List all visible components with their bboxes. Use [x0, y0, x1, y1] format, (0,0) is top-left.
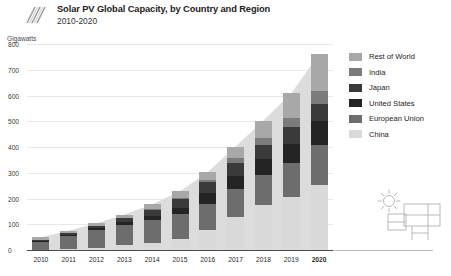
legend-swatch [349, 68, 362, 76]
x-axis-tick-label: 2018 [256, 256, 271, 263]
legend-label: India [369, 68, 385, 77]
bar-segment-united-states [199, 193, 216, 204]
y-axis-tick-label: 0 [8, 247, 12, 254]
legend-swatch [349, 130, 362, 138]
bar-segment-european-union [227, 189, 244, 217]
bar-segment-rest-of-world [311, 54, 328, 91]
y-axis-tick-label: 500 [8, 118, 19, 125]
y-axis-tick-label: 100 [8, 221, 19, 228]
bar-2011 [60, 231, 77, 250]
x-axis-tick-label: 2017 [228, 256, 243, 263]
bar-segment-japan [283, 127, 300, 143]
bar-segment-rest-of-world [199, 172, 216, 180]
x-axis-line-extension [333, 250, 433, 251]
legend-item-japan[interactable]: Japan [349, 80, 424, 96]
bar-segment-rest-of-world [172, 191, 189, 198]
legend-swatch [349, 53, 362, 61]
legend-label: Rest of World [369, 52, 415, 61]
bar-segment-rest-of-world [283, 93, 300, 118]
bar-2019 [283, 93, 300, 250]
legend-item-china[interactable]: China [349, 127, 424, 143]
legend-item-united-states[interactable]: United States [349, 96, 424, 112]
y-axis-tick-label: 200 [8, 195, 19, 202]
bar-segment-european-union [283, 163, 300, 197]
y-axis-tick-label: 700 [8, 66, 19, 73]
bar-segment-european-union [88, 230, 105, 248]
bar-segment-united-states [311, 121, 328, 145]
bar-segment-united-states [255, 159, 272, 175]
bar-segment-japan [255, 145, 272, 159]
bar-segment-china [199, 230, 216, 250]
y-axis-tick-label: 800 [8, 41, 19, 48]
bar-segment-japan [172, 199, 189, 208]
bar-segment-china [283, 197, 300, 250]
bar-segment-rest-of-world [255, 121, 272, 139]
legend-label: European Union [369, 114, 424, 123]
legend-label: United States [369, 99, 415, 108]
x-axis-tick-label: 2013 [117, 256, 132, 263]
x-axis-tick-label: 2011 [62, 256, 76, 263]
legend-swatch [349, 99, 362, 107]
bar-segment-china [255, 205, 272, 250]
bar-segment-united-states [227, 176, 244, 189]
legend-label: China [369, 130, 389, 139]
bar-2016 [199, 172, 216, 250]
bar-segment-european-union [199, 204, 216, 230]
chart-legend: Rest of WorldIndiaJapanUnited StatesEuro… [349, 49, 424, 142]
legend-swatch [349, 84, 362, 92]
x-axis-tick-label: 2015 [173, 256, 188, 263]
bar-2020 [311, 54, 328, 250]
x-axis-tick-label: 2016 [200, 256, 215, 263]
bar-segment-european-union [144, 220, 161, 243]
bar-segment-united-states [283, 144, 300, 164]
chart-page: Solar PV Global Capacity, by Country and… [0, 0, 451, 276]
bar-segment-european-union [116, 225, 133, 246]
bar-segment-european-union [311, 145, 328, 184]
legend-item-india[interactable]: India [349, 65, 424, 81]
bar-segment-china [311, 185, 328, 250]
x-axis-tick-label: 2010 [33, 256, 48, 263]
bar-segment-india [255, 138, 272, 145]
bar-2012 [88, 223, 105, 250]
bar-2010 [32, 237, 49, 250]
x-axis-line [27, 250, 333, 251]
x-axis-tick-label: 2020 [312, 256, 327, 263]
y-axis-tick-label: 300 [8, 169, 19, 176]
bar-segment-japan [199, 182, 216, 193]
bar-segment-india [311, 91, 328, 103]
y-axis-tick-label: 400 [8, 144, 19, 151]
bar-segment-japan [311, 104, 328, 122]
bar-2018 [255, 121, 272, 250]
solar-panel-with-sun-icon [376, 186, 444, 246]
bar-segment-european-union [32, 242, 49, 250]
bar-segment-european-union [255, 175, 272, 205]
x-axis-tick-label: 2012 [89, 256, 104, 263]
bar-segment-rest-of-world [227, 147, 244, 159]
y-axis-tick-label: 600 [8, 92, 19, 99]
bar-segment-china [144, 243, 161, 250]
legend-label: Japan [369, 83, 390, 92]
bar-2013 [116, 215, 133, 250]
bar-2015 [172, 191, 189, 250]
bar-segment-india [283, 118, 300, 127]
x-axis-tick-label: 2014 [145, 256, 160, 263]
bar-segment-japan [227, 163, 244, 176]
bar-2017 [227, 147, 244, 250]
legend-item-european-union[interactable]: European Union [349, 111, 424, 127]
bar-segment-european-union [172, 214, 189, 238]
legend-item-rest-of-world[interactable]: Rest of World [349, 49, 424, 65]
bar-segment-china [172, 239, 189, 250]
x-axis-tick-label: 2019 [284, 256, 299, 263]
bar-segment-china [227, 217, 244, 250]
legend-swatch [349, 115, 362, 123]
bar-segment-european-union [60, 236, 77, 249]
bar-2014 [144, 204, 161, 250]
